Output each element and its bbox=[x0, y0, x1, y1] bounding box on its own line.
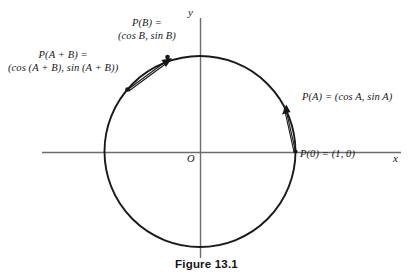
point-p0 bbox=[294, 150, 298, 154]
y-axis-label: y bbox=[188, 6, 193, 18]
label-point-b: P(B) = (cos B, sin B) bbox=[118, 16, 176, 42]
origin-label: O bbox=[187, 153, 195, 164]
label-point-a-plus-b-line2: (cos (A + B), sin (A + B)) bbox=[8, 61, 118, 74]
figure-caption: Figure 13.1 bbox=[0, 258, 413, 270]
label-point-a-plus-b: P(A + B) = (cos (A + B), sin (A + B)) bbox=[8, 48, 118, 74]
figure-13-1: P(B) = (cos B, sin B) P(A + B) = (cos (A… bbox=[0, 0, 413, 279]
label-point-a-plus-b-line1: P(A + B) = bbox=[39, 49, 88, 60]
point-pb bbox=[165, 55, 170, 60]
point-pa bbox=[284, 107, 289, 112]
label-point-b-line1: P(B) = bbox=[132, 17, 162, 28]
point-pab bbox=[125, 87, 130, 92]
chord-pab-to-pb bbox=[128, 58, 172, 91]
x-axis-label: x bbox=[393, 152, 398, 164]
label-point-b-line2: (cos B, sin B) bbox=[118, 29, 176, 42]
unit-circle-diagram bbox=[0, 0, 413, 279]
label-point-a: P(A) = (cos A, sin A) bbox=[302, 90, 392, 103]
label-point-zero: P(0) = (1, 0) bbox=[300, 147, 355, 160]
